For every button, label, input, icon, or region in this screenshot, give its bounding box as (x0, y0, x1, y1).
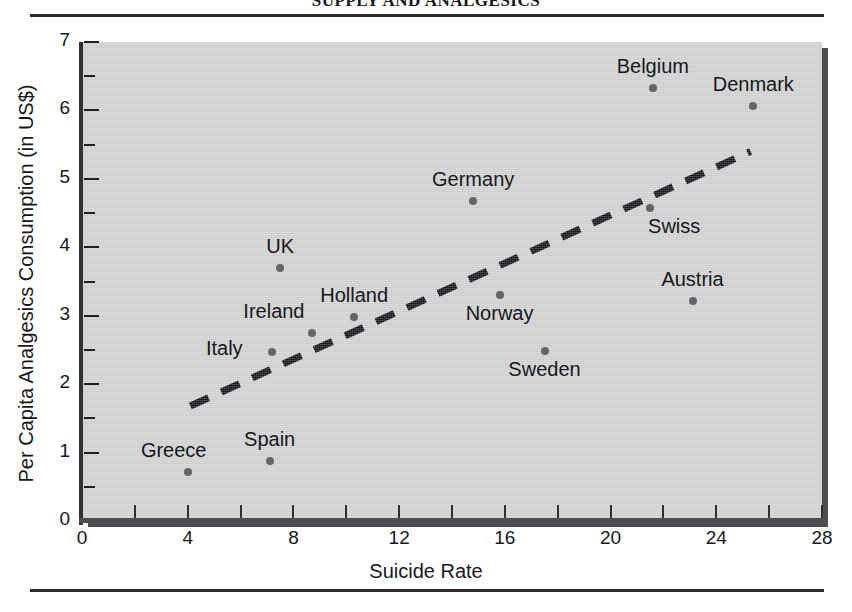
data-point-label: Belgium (617, 55, 689, 78)
x-tick-label: 24 (696, 527, 736, 549)
data-point (496, 291, 504, 299)
y-tick (84, 246, 99, 248)
data-point (308, 329, 316, 337)
y-tick (84, 41, 99, 43)
y-tick-label: 4 (34, 234, 70, 256)
x-tick-label: 28 (802, 527, 842, 549)
y-tick-label: 5 (34, 166, 70, 188)
x-axis-line (79, 518, 826, 523)
x-tick-minor (662, 505, 664, 518)
data-point (646, 204, 654, 212)
y-tick (84, 178, 99, 180)
data-point-label: Austria (661, 268, 723, 291)
x-tick-minor (451, 505, 453, 518)
data-point-label: Spain (244, 428, 295, 451)
x-tick-label: 20 (591, 527, 631, 549)
data-point (266, 457, 274, 465)
data-point-label: Sweden (508, 358, 580, 381)
y-tick (84, 452, 99, 454)
y-tick (84, 383, 99, 385)
data-point-label: Germany (432, 168, 514, 191)
data-point-label: Italy (206, 337, 243, 360)
y-tick-label: 6 (34, 97, 70, 119)
data-point-label: Norway (466, 302, 534, 325)
data-point (689, 297, 697, 305)
x-tick-minor (134, 505, 136, 518)
data-point (541, 347, 549, 355)
x-tick-label: 4 (168, 527, 208, 549)
data-point-label: UK (266, 235, 294, 258)
x-axis-title: Suicide Rate (0, 560, 852, 583)
y-tick-minor (84, 486, 95, 488)
data-point-label: Ireland (243, 300, 304, 323)
x-tick (187, 505, 189, 518)
y-axis-line (79, 42, 83, 525)
data-point (749, 102, 757, 110)
x-tick-minor (240, 505, 242, 518)
x-tick (715, 505, 717, 518)
data-point (649, 84, 657, 92)
x-tick (821, 505, 823, 518)
x-tick-minor (768, 505, 770, 518)
y-tick-minor (84, 144, 95, 146)
data-point-label: Greece (141, 439, 207, 462)
y-tick-label: 2 (34, 371, 70, 393)
y-tick-minor (84, 417, 95, 419)
x-tick (81, 505, 83, 518)
y-tick-minor (84, 281, 95, 283)
x-tick-minor (557, 505, 559, 518)
data-point (276, 264, 284, 272)
page-canvas: SUPPLY AND ANALGESICS 0481216202428 0123… (0, 0, 852, 612)
y-tick (84, 315, 99, 317)
data-point-label: Swiss (648, 215, 700, 238)
y-tick-minor (84, 212, 95, 214)
y-axis-title: Per Capita Analgesics Consumption (in US… (15, 34, 38, 534)
x-tick (398, 505, 400, 518)
x-tick-label: 12 (379, 527, 419, 549)
y-tick-label: 0 (34, 508, 70, 530)
data-point-label: Holland (320, 284, 388, 307)
x-tick-minor (345, 505, 347, 518)
y-tick-minor (84, 349, 95, 351)
y-tick (84, 109, 99, 111)
x-tick-label: 16 (485, 527, 525, 549)
x-tick-label: 0 (62, 527, 102, 549)
x-tick (610, 505, 612, 518)
x-tick (504, 505, 506, 518)
data-point-label: Denmark (713, 73, 794, 96)
y-tick-label: 1 (34, 440, 70, 462)
data-point (469, 197, 477, 205)
x-tick-label: 8 (273, 527, 313, 549)
y-tick-label: 3 (34, 303, 70, 325)
data-point (184, 468, 192, 476)
y-tick-minor (84, 75, 95, 77)
scatter-chart: 0481216202428 01234567 GreeceSpainItalyU… (0, 0, 852, 612)
x-tick (292, 505, 294, 518)
y-tick-label: 7 (34, 29, 70, 51)
